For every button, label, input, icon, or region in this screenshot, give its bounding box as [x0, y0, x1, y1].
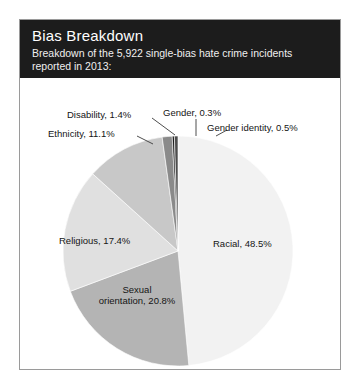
slice-label-gender-identity: Gender identity, 0.5% — [207, 122, 298, 133]
slice-label-ethnicity: Ethnicity, 11.1% — [48, 128, 115, 139]
pie-slice-racial[interactable] — [178, 136, 293, 365]
slice-label-religious: Religious, 17.4% — [59, 235, 130, 246]
slice-label-sexual-orientation-line1: Sexual — [122, 284, 151, 295]
page-title: Bias Breakdown — [32, 26, 328, 45]
slice-label-gender: Gender, 0.3% — [163, 107, 221, 118]
slice-label-sexual-orientation: Sexual orientation, 20.8% — [83, 284, 191, 306]
card-header: Bias Breakdown Breakdown of the 5,922 si… — [20, 20, 340, 78]
pie-chart-plot-area: Disability, 1.4% Gender, 0.3% Gender ide… — [20, 78, 340, 370]
bias-breakdown-card: Bias Breakdown Breakdown of the 5,922 si… — [19, 19, 341, 370]
pie-slices — [63, 136, 293, 366]
slice-label-racial: Racial, 48.5% — [213, 238, 272, 249]
leader-line-disability — [152, 118, 175, 135]
slice-label-sexual-orientation-line2: orientation, 20.8% — [99, 295, 176, 306]
screenshot-canvas: Bias Breakdown Breakdown of the 5,922 si… — [0, 0, 361, 389]
card-subtitle: Breakdown of the 5,922 single-bias hate … — [32, 47, 312, 73]
slice-label-disability: Disability, 1.4% — [67, 109, 131, 120]
